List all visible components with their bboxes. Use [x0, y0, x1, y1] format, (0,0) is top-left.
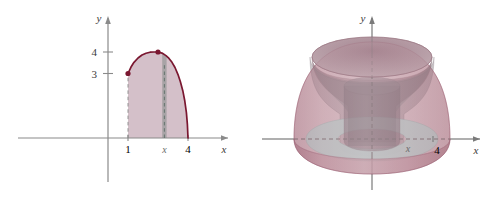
cavity-mouth-rim	[312, 37, 432, 77]
y-tick-label-3: 3	[92, 68, 98, 80]
x-tick-label-variable-3d: x	[405, 143, 411, 154]
x-axis-label-3d: x	[473, 144, 479, 156]
x-axis-arrow-icon	[221, 135, 228, 141]
3d-solid-svg: x 4 x y	[248, 0, 496, 201]
x-axis-arrow-icon	[473, 136, 480, 142]
x-tick-label-4-3d: 4	[434, 144, 440, 156]
x-tick-label-4: 4	[185, 143, 191, 155]
representative-strip-group	[162, 28, 166, 138]
y-tick-label-4: 4	[92, 46, 98, 58]
representative-strip	[162, 28, 166, 138]
x-tick-label-1: 1	[125, 143, 131, 155]
figure-root: y x 4 3 1 x 4	[0, 0, 496, 201]
y-axis-arrow-icon	[369, 16, 375, 24]
y-axis-label-3d: y	[360, 12, 366, 24]
marker-point-1-3	[125, 71, 130, 76]
marker-point-vertex	[155, 49, 160, 54]
y-axis-arrow-icon	[105, 16, 111, 24]
2d-region-svg: y x 4 3 1 x 4	[0, 0, 248, 201]
3d-solid-panel: x 4 x y	[248, 0, 496, 201]
shaded-region	[128, 52, 188, 138]
y-axis-label: y	[96, 12, 102, 24]
x-tick-label-variable: x	[161, 144, 167, 155]
x-axis-label: x	[221, 143, 227, 155]
2d-region-panel: y x 4 3 1 x 4	[0, 0, 248, 201]
